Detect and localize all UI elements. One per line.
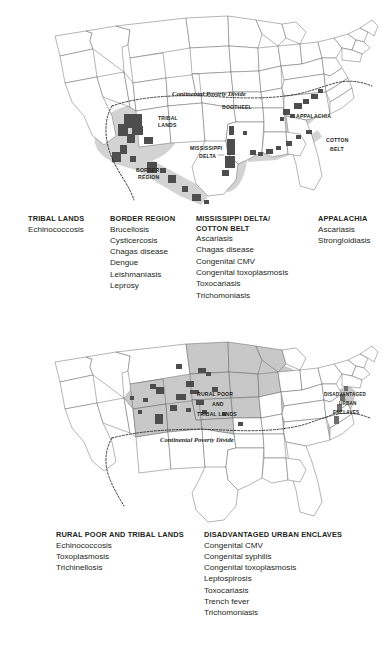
state-sd	[190, 46, 231, 74]
map-label-divide: Continental Poverty Divide	[160, 436, 234, 443]
county-cluster	[229, 126, 234, 135]
county-cluster	[280, 117, 284, 121]
state-mi	[282, 22, 306, 44]
county-cluster	[182, 186, 188, 192]
county-cluster	[227, 139, 235, 155]
legend-item: Dengue	[110, 257, 202, 268]
county-cluster	[222, 170, 229, 176]
state-in	[278, 370, 302, 392]
county-cluster	[120, 145, 127, 154]
legend-title-disadvantaged-urban-enclaves: DISADVANTAGED URBAN ENCLAVES	[204, 530, 388, 540]
state-nd-shaded	[186, 342, 229, 374]
map-label-cotton-belt-line2: BELT	[330, 146, 344, 152]
county-cluster	[276, 146, 281, 150]
legend-item: Trichomoniasis	[204, 607, 388, 618]
map-label-urban-enclaves-line1: DISADVANTAGED	[324, 392, 366, 397]
state-ar	[234, 108, 264, 122]
county-cluster	[168, 175, 176, 183]
state-outlines	[55, 16, 378, 196]
county-cluster	[176, 364, 182, 369]
county-cluster	[206, 372, 211, 376]
state-ia-shaded	[229, 372, 259, 398]
legend-item: Trench fever	[204, 596, 388, 607]
state-ut	[133, 78, 168, 111]
legend-item: Congenital syphilis	[204, 551, 388, 562]
legend-title-border-region: BORDER REGION	[110, 214, 202, 224]
county-cluster	[156, 387, 164, 394]
legend-item: Toxoplasmosis	[56, 551, 204, 562]
county-cluster	[283, 109, 290, 115]
legend-column-rural-poor-tribal-lands: RURAL POOR AND TRIBAL LANDS Echinococcos…	[56, 530, 204, 573]
map-label-border-region-line1: BORDER	[136, 167, 159, 173]
county-cluster	[198, 368, 206, 373]
state-wy	[130, 53, 166, 83]
county-cluster	[296, 135, 301, 139]
county-cluster	[192, 194, 201, 201]
county-cluster	[112, 152, 121, 162]
legend-column-border-region: BORDER REGION Brucellosis Cysticercosis …	[110, 214, 202, 291]
legend-column-disadvantaged-urban-enclaves: DISADVANTAGED URBAN ENCLAVES Congenital …	[204, 530, 388, 619]
county-cluster	[130, 156, 136, 162]
county-cluster	[176, 394, 186, 400]
state-nm	[168, 429, 205, 469]
county-cluster	[243, 131, 247, 135]
county-cluster	[294, 103, 302, 109]
map-label-mississippi-line1: MISSISSIPPI	[190, 145, 223, 151]
county-cluster	[250, 150, 256, 155]
map-label-urban-enclaves-line2: URBAN	[339, 401, 357, 406]
county-cluster	[138, 410, 142, 414]
county-cluster	[303, 99, 309, 104]
map-label-rural-poor-line2: AND	[212, 401, 224, 407]
county-cluster	[127, 134, 135, 143]
legend-list-tribal-lands: Echinococcosis	[28, 224, 114, 235]
county-cluster	[238, 422, 243, 426]
legend-item: Congenital toxoplasmosis	[204, 562, 388, 573]
county-cluster	[170, 405, 177, 411]
legend-item: Echinococcosis	[28, 224, 114, 235]
legend-title-tribal-lands: TRIBAL LANDS	[28, 214, 114, 224]
state-in	[278, 44, 302, 66]
state-ia	[229, 46, 259, 72]
figure-root: Continental Poverty Divide TRIBAL LANDS …	[0, 0, 388, 653]
legend-item: Congenital CMV	[196, 256, 318, 267]
legend-item: Toxocariasis	[196, 278, 318, 289]
legend-row-top: TRIBAL LANDS Echinococcosis BORDER REGIO…	[0, 214, 388, 330]
legend-item: Chagas disease	[110, 246, 202, 257]
legend-bottom: RURAL POOR AND TRIBAL LANDS Echinococcos…	[0, 530, 388, 646]
legend-item: Strongloidiasis	[318, 235, 388, 246]
legend-column-tribal-lands: TRIBAL LANDS Echinococcosis	[28, 214, 114, 235]
us-map-bottom: Continental Poverty Divide RURAL POOR AN…	[0, 334, 388, 534]
county-cluster	[344, 386, 348, 391]
map-label-cotton-belt-line1: COTTON	[326, 137, 349, 143]
map-label-rural-poor-line1: RURAL POOR	[197, 391, 233, 397]
state-mo-n	[231, 71, 261, 92]
legend-title-rural-poor-tribal-lands: RURAL POOR AND TRIBAL LANDS	[56, 530, 204, 540]
state-ar	[234, 434, 264, 448]
map-label-divide: Continental Poverty Divide	[172, 90, 246, 97]
county-cluster	[311, 94, 318, 99]
legend-top: TRIBAL LANDS Echinococcosis BORDER REGIO…	[0, 214, 388, 330]
legend-item: Congenital CMV	[204, 540, 388, 551]
county-cluster	[334, 416, 339, 424]
map-label-appalachia: APPALACHIA	[296, 113, 331, 119]
state-nd	[186, 16, 229, 48]
state-ms-s	[262, 132, 288, 157]
county-cluster	[266, 149, 273, 154]
legend-item: Ascariasis	[196, 233, 318, 244]
us-map-top: Continental Poverty Divide TRIBAL LANDS …	[0, 4, 388, 214]
county-cluster	[204, 200, 209, 204]
county-cluster	[290, 114, 295, 118]
county-cluster	[160, 168, 166, 173]
state-al-ga	[284, 418, 330, 446]
state-ms-s	[262, 458, 288, 483]
county-cluster	[196, 400, 204, 405]
legend-list-appalachia: Ascariasis Strongloidiasis	[318, 224, 388, 247]
state-mo-s	[233, 418, 263, 434]
legend-item: Brucellosis	[110, 224, 202, 235]
legend-item: Cysticercosis	[110, 235, 202, 246]
map-label-tribal-lands-line1: TRIBAL	[158, 115, 178, 121]
state-la	[226, 448, 264, 490]
legend-item: Chagas disease	[196, 244, 318, 255]
legend-item: Leishmaniasis	[110, 269, 202, 280]
legend-item: Ascariasis	[318, 224, 388, 235]
